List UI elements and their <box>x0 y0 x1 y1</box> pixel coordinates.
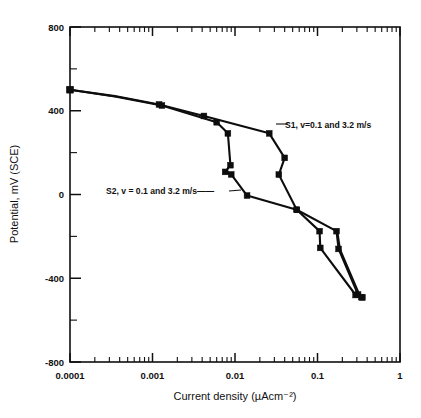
series-label-s1: S1, v=0.1 and 3.2 m/s <box>285 120 371 130</box>
x-tick-label: 0.01 <box>226 370 245 381</box>
x-tick-label: 0.001 <box>141 370 165 381</box>
data-marker <box>294 207 300 213</box>
y-tick-label: 0 <box>59 189 64 200</box>
data-marker <box>159 103 165 109</box>
data-marker <box>222 169 228 175</box>
y-tick-label: 400 <box>48 105 64 116</box>
data-marker <box>228 172 234 178</box>
x-axis-title: Current density (µAcm⁻²) <box>174 390 297 402</box>
data-marker <box>228 162 234 168</box>
y-tick-label: 800 <box>48 22 64 33</box>
chart-canvas: 0.00010.0010.010.11 8004000-400-800 S1, … <box>0 0 421 418</box>
series-label-s2: S2, v = 0.1 and 3.2 m/s—— <box>106 186 215 196</box>
data-marker <box>225 130 231 136</box>
annotation-leaders <box>229 124 288 191</box>
x-tick-label: 0.0001 <box>55 370 85 381</box>
data-marker <box>317 228 323 234</box>
y-axis-ticks <box>70 27 81 362</box>
y-tick-label: -800 <box>45 357 64 368</box>
data-marker <box>67 87 73 93</box>
y-axis-tick-labels: 8004000-400-800 <box>45 22 64 368</box>
x-tick-label: 1 <box>397 370 403 381</box>
data-marker <box>214 119 220 125</box>
data-marker <box>276 172 282 178</box>
data-marker <box>266 130 272 136</box>
y-axis-title: Potential, mV (SCE) <box>8 145 20 243</box>
data-marker <box>244 193 250 199</box>
x-axis-tick-labels: 0.00010.0010.010.11 <box>55 370 403 381</box>
data-marker <box>282 155 288 161</box>
polarization-curve-figure: 0.00010.0010.010.11 8004000-400-800 S1, … <box>0 0 421 418</box>
s2-leader-line <box>229 190 241 191</box>
y-tick-label: -400 <box>45 273 64 284</box>
x-tick-label: 0.1 <box>311 370 325 381</box>
data-marker <box>317 245 323 251</box>
